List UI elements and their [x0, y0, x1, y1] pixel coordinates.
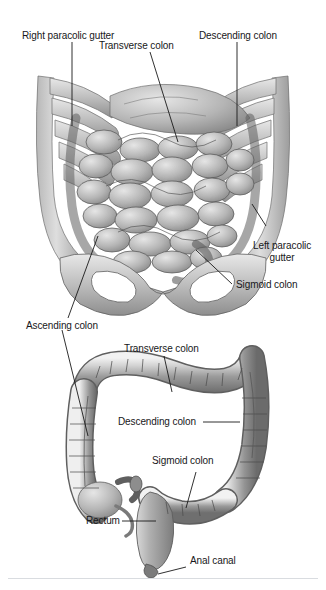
cecum	[78, 482, 122, 518]
label-sigmoid-colon-upper: Sigmoid colon	[236, 279, 298, 291]
label-transverse-colon-upper: Transverse colon	[99, 40, 174, 52]
label-rectum: Rectum	[86, 515, 120, 527]
anatomy-illustration	[0, 0, 326, 590]
label-left-paracolic-gutter: Left paracolic gutter	[240, 240, 324, 263]
label-descending-colon-lower: Descending colon	[118, 416, 196, 428]
ileum-lumen	[130, 476, 142, 492]
label-sigmoid-colon-lower: Sigmoid colon	[152, 455, 214, 467]
label-transverse-colon-lower: Transverse colon	[124, 343, 199, 355]
label-anal-canal: Anal canal	[190, 555, 236, 567]
label-descending-colon-upper: Descending colon	[199, 30, 277, 42]
label-ascending-colon: Ascending colon	[26, 320, 98, 332]
footer-divider	[8, 578, 318, 579]
